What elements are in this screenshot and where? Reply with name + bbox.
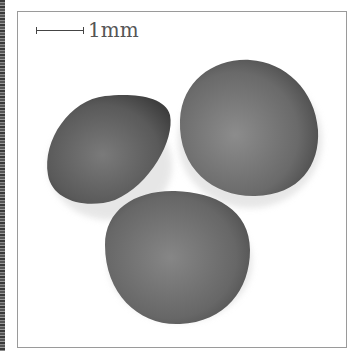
seed-bottom [105,191,250,324]
scale-bar: 1mm [36,20,139,40]
scale-line [36,30,84,31]
scale-label: 1mm [88,20,139,40]
seed-right [180,60,318,196]
seed-photo [0,0,352,351]
